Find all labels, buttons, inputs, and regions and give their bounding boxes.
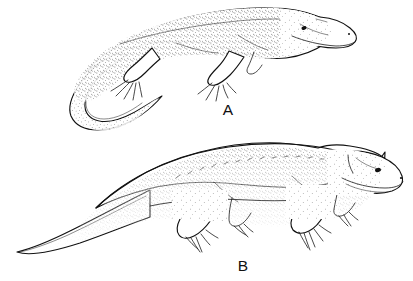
specimen-b-nostril [400,177,402,179]
specimen-label-b: B [238,257,248,274]
illustration-canvas: A [0,0,413,281]
specimen-a-group: A [60,0,360,140]
specimen-b-head [328,145,408,195]
specimen-label-a: A [223,101,234,118]
specimen-b-group: B [10,135,408,274]
specimen-b-hind-limb [172,190,228,252]
specimen-a-nostril [348,33,350,35]
specimen-a-head [280,10,360,55]
figure-container: A [0,0,413,281]
specimen-a-fore-limb [198,51,244,101]
